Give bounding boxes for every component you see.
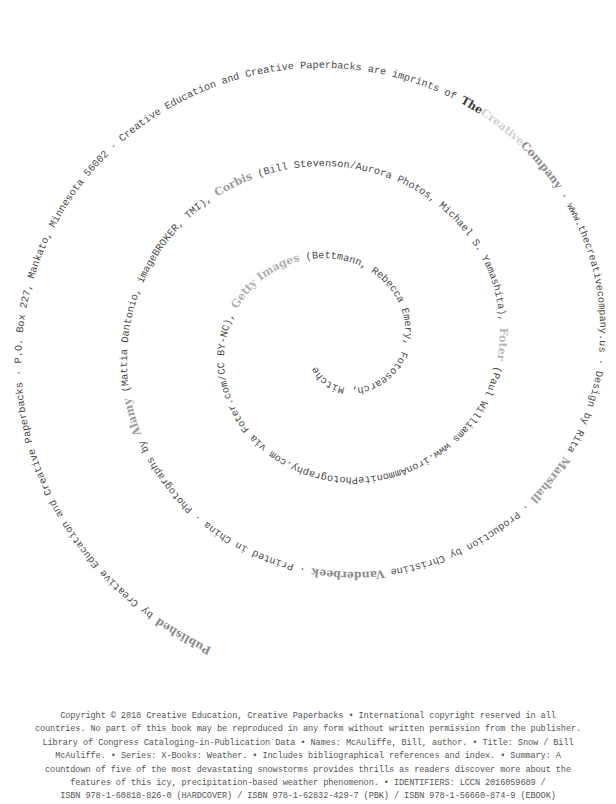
copyright-line: countries. No part of this book may be r… [30,723,586,736]
copyright-line: features of this icy, precipitation-base… [30,777,586,790]
credit-logo-6: Marshall [528,454,572,506]
credit-text-15: (Paul Williams www.ironAmmonitePhotograp… [216,306,505,486]
spiral-text: Published by Creative Education and Crea… [0,0,608,657]
credit-logo-12: Corbis [212,170,254,200]
credit-text-5: · www.thecreativecompany.us · Design by … [554,185,608,460]
credit-logo-8: Vanderbeek [310,565,386,582]
spiral-credits: Published by Creative Education and Crea… [0,0,616,700]
credit-logo-16: Getty Images [228,251,300,310]
credit-text-13: (Bill Stevenson/Aurora Photos, Michael S… [250,158,508,328]
credit-logo-10: Alamy [121,397,145,439]
credit-logo-0: Published [153,615,213,657]
copyright-line: ISBN 978-1-60818-826-0 (HARDCOVER) / ISB… [30,790,586,803]
copyright-block: Copyright © 2018 Creative Education, Cre… [30,710,586,804]
copyright-line: Library of Congress Cataloging-in-Public… [30,737,586,750]
credit-text-11: (Mattia Dantonio, imageBROKER, TMI), [119,190,219,399]
copyright-line: Copyright © 2018 Creative Education, Cre… [30,710,586,723]
copyright-line: countdown of five of the most devastatin… [30,764,586,777]
credit-text-9: · Printed in China · Photographs by [134,433,313,576]
credit-logo-20: Shutterstock [0,0,4,3]
credit-text-19: (Don Komarechka 2009, Jonathan Lesage, t… [0,0,4,3]
credit-text-21: (boscorelli, Jorg Hackemann, Kudryashka,… [0,0,4,3]
credit-logo-18: iStockphoto [0,0,4,3]
credit-logo-4: Company [518,139,565,192]
credit-text-7: · Production by Christine [384,497,536,578]
credit-logo-3: Creative [478,106,527,148]
credit-logo-14: Foter [494,328,510,362]
copyright-line: McAuliffe. • Series: X-Books: Weather. •… [30,750,586,763]
